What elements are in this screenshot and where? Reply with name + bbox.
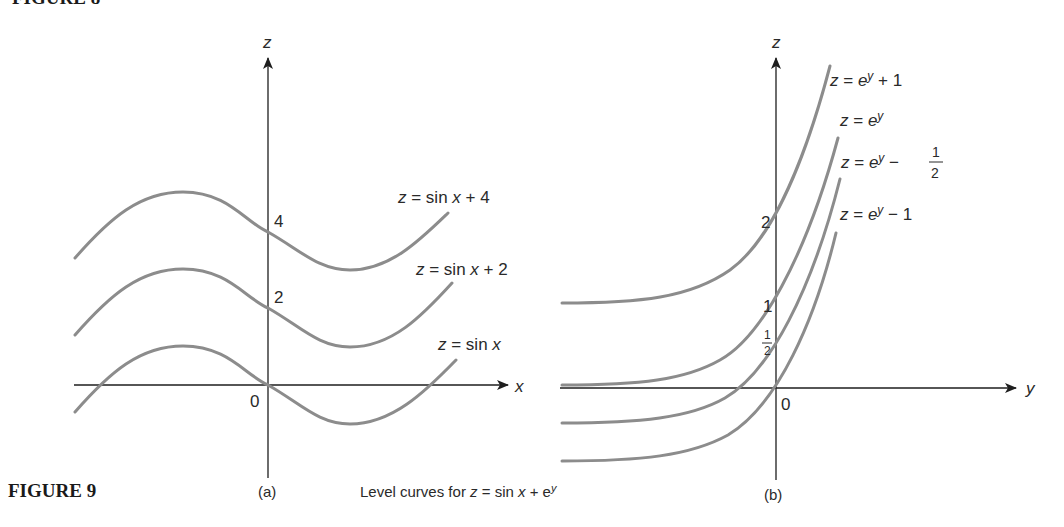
svg-text:1: 1 bbox=[764, 328, 771, 342]
y-axis-label-b: y bbox=[1025, 379, 1036, 398]
z-axis-label-b: z bbox=[771, 33, 781, 52]
panel-b: z y 2 1 1 2 0 z = ey + 1 z = ey z = ey −… bbox=[560, 33, 1036, 503]
figure-caption: Level curves for z = sin x + ey bbox=[360, 482, 558, 500]
svg-text:z = ey −: z = ey − bbox=[840, 151, 899, 172]
partial-header-title: FIGURE 8 bbox=[12, 0, 100, 8]
label-ey: z = ey bbox=[839, 109, 884, 130]
tick-2-b: 2 bbox=[761, 213, 770, 232]
label-ey-plus-1: z = ey + 1 bbox=[829, 69, 902, 90]
label-ey-minus-1: z = ey − 1 bbox=[839, 203, 912, 224]
label-ey-minus-half: z = ey − 1 2 bbox=[840, 144, 943, 181]
tick-half-b: 1 2 bbox=[762, 328, 772, 358]
curve-ey-minus-1 bbox=[562, 233, 836, 461]
x-axis-label-a: x bbox=[514, 377, 524, 396]
panel-a-label: (a) bbox=[258, 483, 276, 500]
label-sinx: z = sin x bbox=[437, 335, 501, 354]
z-axis-label-a: z bbox=[262, 33, 272, 52]
curve-sinx-plus-4 bbox=[75, 192, 448, 270]
tick-2-a: 2 bbox=[274, 288, 283, 307]
svg-text:1: 1 bbox=[932, 144, 940, 160]
tick-1-b: 1 bbox=[763, 297, 772, 316]
tick-4-a: 4 bbox=[274, 212, 283, 231]
curve-sinx-plus-2 bbox=[75, 269, 452, 347]
label-sinx-plus-2: z = sin x + 2 bbox=[415, 260, 508, 279]
svg-text:2: 2 bbox=[764, 344, 771, 358]
panel-b-label: (b) bbox=[764, 486, 782, 503]
svg-text:2: 2 bbox=[931, 165, 939, 181]
tick-0-b: 0 bbox=[781, 395, 790, 414]
tick-0-a: 0 bbox=[250, 392, 259, 411]
panel-a: z x 4 2 0 z = sin x + 4 z = sin x + 2 z … bbox=[74, 33, 524, 500]
figure-number: FIGURE 9 bbox=[8, 480, 96, 501]
label-sinx-plus-4: z = sin x + 4 bbox=[397, 188, 490, 207]
figure-9: FIGURE 8 z x 4 2 0 z = sin x + 4 z = sin… bbox=[0, 0, 1064, 527]
